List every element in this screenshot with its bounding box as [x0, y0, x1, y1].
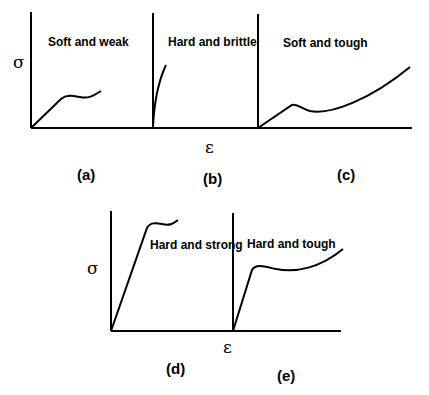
panel-tag-e: (e) [277, 367, 295, 384]
epsilon-axis-label-top: ε [205, 137, 214, 157]
sigma-axis-label-top: σ [13, 52, 25, 72]
panel-tag-c: (c) [337, 166, 355, 183]
curve-b [153, 65, 166, 127]
label-hard-and-brittle: Hard and brittle [168, 35, 257, 49]
top-row-axes [31, 12, 412, 128]
panel-tag-a: (a) [77, 166, 95, 183]
label-soft-and-weak: Soft and weak [48, 35, 129, 49]
curve-a [31, 91, 101, 128]
bottom-row-axes [111, 211, 341, 331]
sigma-axis-label-bottom: σ [87, 258, 99, 278]
label-soft-and-tough: Soft and tough [283, 36, 368, 50]
label-hard-and-tough: Hard and tough [247, 237, 336, 251]
panel-tag-d: (d) [166, 360, 185, 377]
curve-c [258, 67, 410, 128]
epsilon-axis-label-bottom: ε [223, 337, 232, 357]
panel-tag-b: (b) [203, 170, 222, 187]
curve-e [233, 249, 343, 331]
label-hard-and-strong: Hard and strong [150, 238, 243, 252]
curve-d [111, 220, 178, 331]
stress-strain-diagram: Soft and weak Hard and brittle Soft and … [0, 0, 429, 395]
